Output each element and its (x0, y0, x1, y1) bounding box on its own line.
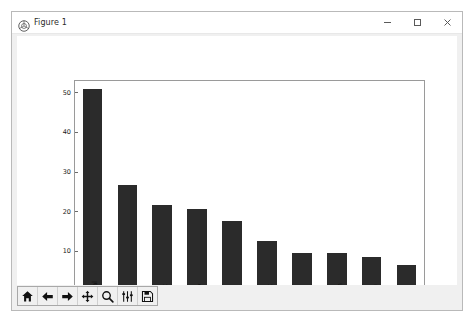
bar-slot (215, 81, 250, 285)
window-controls (372, 12, 462, 33)
screen-root: Figure 1 (0, 0, 475, 334)
home-icon[interactable] (18, 287, 38, 305)
y-axis-tick-label: 50 (63, 90, 75, 97)
y-axis-tick-label: 40 (63, 129, 75, 136)
x-axis-tick-label: ondition (337, 283, 344, 285)
y-axis-tick-label: 30 (63, 169, 75, 176)
bar-slot (389, 81, 424, 285)
bar (118, 185, 138, 285)
bar-slot (75, 81, 110, 285)
bar (222, 221, 242, 285)
y-axis-tick-label: 20 (63, 209, 75, 216)
bar-series (75, 81, 424, 285)
y-axis-tick-mark (75, 251, 78, 252)
bar (152, 205, 172, 285)
pan-move-icon[interactable] (78, 287, 98, 305)
bar (187, 209, 207, 285)
save-disk-icon[interactable] (138, 287, 157, 305)
bar-slot (284, 81, 319, 285)
close-button[interactable] (432, 12, 462, 33)
bar-slot (145, 81, 180, 285)
x-axis-tick-label: Parking (232, 284, 239, 285)
bar-slot (180, 81, 215, 285)
matplotlib-icon (18, 17, 30, 29)
back-arrow-icon[interactable] (38, 287, 58, 305)
bar (257, 241, 277, 285)
bar (292, 253, 312, 285)
bar (397, 265, 417, 285)
plot-axes: 01020304050 (74, 80, 425, 285)
y-axis-tick-mark (75, 211, 78, 212)
bar-slot (110, 81, 145, 285)
bar (327, 253, 347, 285)
x-axis-tick-label: mplaint (267, 284, 274, 285)
y-axis-tick-mark (75, 92, 78, 93)
figure-window: Figure 1 (11, 11, 463, 311)
zoom-magnifier-icon[interactable] (98, 287, 118, 305)
figure-canvas[interactable]: 01020304050 mmercialNoiseidewalkrivewayP… (17, 36, 457, 285)
forward-arrow-icon[interactable] (58, 287, 78, 305)
x-axis-tick-label: mmercial (92, 281, 99, 285)
x-axis-tick-label: System (372, 284, 379, 285)
window-titlebar[interactable]: Figure 1 (12, 12, 462, 34)
x-axis-tick-label: riveway (197, 284, 204, 285)
titlebar-left: Figure 1 (12, 17, 372, 29)
bar (83, 89, 103, 285)
configure-subplots-icon[interactable] (118, 287, 138, 305)
minimize-button[interactable] (372, 12, 402, 33)
y-axis-tick-mark (75, 132, 78, 133)
y-axis-tick-label: 10 (63, 248, 75, 255)
bar (362, 257, 382, 285)
maximize-button[interactable] (402, 12, 432, 33)
matplotlib-navigation-toolbar (17, 286, 158, 306)
y-axis-tick-mark (75, 172, 78, 173)
bar-slot (319, 81, 354, 285)
x-axis-tick-label: idewalk (162, 284, 169, 285)
bar-slot (354, 81, 389, 285)
bar-slot (250, 81, 285, 285)
canvas-wrapper: 01020304050 mmercialNoiseidewalkrivewayP… (12, 34, 462, 310)
window-title: Figure 1 (34, 18, 67, 27)
